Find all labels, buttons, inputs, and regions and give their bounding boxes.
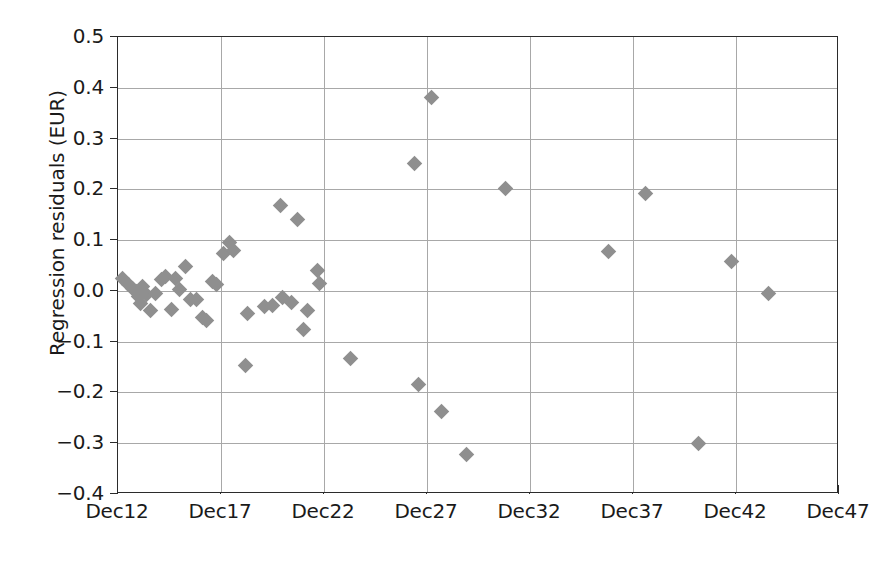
gridline-vertical bbox=[427, 37, 428, 492]
data-point-marker bbox=[300, 302, 316, 318]
gridline-vertical bbox=[530, 37, 531, 492]
y-tick-label-wrap: 0.2 bbox=[38, 178, 104, 198]
x-tick-label: Dec22 bbox=[263, 500, 383, 522]
data-point-marker bbox=[312, 275, 328, 291]
gridline-horizontal bbox=[118, 291, 837, 292]
y-tick-label-wrap: −0.3 bbox=[38, 432, 104, 452]
y-tick-label: 0.0 bbox=[42, 280, 104, 300]
x-tick-label: Dec32 bbox=[469, 500, 589, 522]
y-tick-label: −0.2 bbox=[42, 381, 104, 401]
y-tick-label: −0.1 bbox=[42, 331, 104, 351]
x-tick-label: Dec27 bbox=[366, 500, 486, 522]
data-point-marker bbox=[273, 198, 289, 214]
x-tick-label: Dec37 bbox=[572, 500, 692, 522]
y-tick-label: 0.5 bbox=[42, 26, 104, 46]
gridline-vertical bbox=[221, 37, 222, 492]
data-point-marker bbox=[691, 436, 707, 452]
data-point-marker bbox=[289, 212, 305, 228]
y-tick-label-wrap: 0.0 bbox=[38, 280, 104, 300]
gridline-horizontal bbox=[118, 443, 837, 444]
gridline-horizontal bbox=[118, 189, 837, 190]
data-point-marker bbox=[164, 302, 180, 318]
gridline-vertical bbox=[633, 37, 634, 492]
y-tick-label-wrap: 0.3 bbox=[38, 128, 104, 148]
data-point-marker bbox=[497, 181, 513, 197]
x-tick-label: Dec17 bbox=[160, 500, 280, 522]
data-point-marker bbox=[343, 351, 359, 367]
y-tick-label: 0.3 bbox=[42, 128, 104, 148]
y-tick-label: 0.4 bbox=[42, 77, 104, 97]
gridline-horizontal bbox=[118, 392, 837, 393]
plot-area bbox=[117, 36, 838, 493]
data-point-marker bbox=[411, 377, 427, 393]
y-tick-label: 0.2 bbox=[42, 178, 104, 198]
regression-residuals-scatter-figure: Regression residuals (EUR) 0.50.40.30.20… bbox=[0, 0, 878, 561]
x-tick-mark bbox=[838, 485, 839, 494]
gridline-horizontal bbox=[118, 139, 837, 140]
gridline-horizontal bbox=[118, 88, 837, 89]
y-axis-title: Regression residuals (EUR) bbox=[46, 3, 68, 443]
data-point-marker bbox=[458, 447, 474, 463]
y-tick-label: 0.1 bbox=[42, 229, 104, 249]
gridline-vertical bbox=[324, 37, 325, 492]
data-point-marker bbox=[296, 322, 312, 338]
data-point-marker bbox=[178, 259, 194, 275]
paper-bleed-texture bbox=[120, 8, 125, 26]
y-tick-label-wrap: 0.4 bbox=[38, 77, 104, 97]
y-tick-label-wrap: −0.1 bbox=[38, 331, 104, 351]
data-point-marker bbox=[600, 244, 616, 260]
y-tick-label-wrap: 0.1 bbox=[38, 229, 104, 249]
data-point-marker bbox=[238, 357, 254, 373]
x-tick-label: Dec12 bbox=[57, 500, 177, 522]
data-point-marker bbox=[724, 254, 740, 270]
y-tick-label: −0.3 bbox=[42, 432, 104, 452]
data-point-marker bbox=[434, 404, 450, 420]
x-tick-label: Dec47 bbox=[778, 500, 878, 522]
data-point-marker bbox=[761, 286, 777, 302]
y-tick-label-wrap: 0.5 bbox=[38, 26, 104, 46]
y-tick-label-wrap: −0.2 bbox=[38, 381, 104, 401]
data-point-marker bbox=[240, 306, 256, 322]
x-tick-label: Dec42 bbox=[675, 500, 795, 522]
data-point-marker bbox=[423, 90, 439, 106]
data-point-marker bbox=[407, 156, 423, 172]
gridline-horizontal bbox=[118, 342, 837, 343]
data-point-marker bbox=[638, 186, 654, 202]
